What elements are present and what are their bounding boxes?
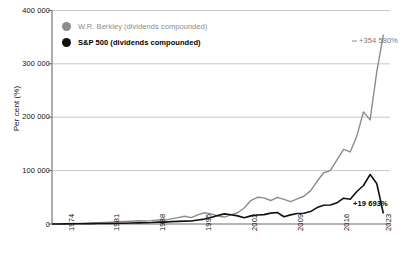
x-tick-label-1974: 1974 [68,214,76,232]
annotation-sp500-total: +19 693% [353,199,388,208]
line-series-berkley [52,35,383,224]
x-tick-label-1995: 1995 [205,214,213,232]
x-tick-label-2009: 2009 [297,214,305,232]
x-tick-label-2016: 2016 [343,214,351,232]
legend-dot-icon-berkley [62,22,71,31]
chart-legend: W.R. Berkley (dividends compounded) S&P … [62,18,207,50]
y-tick-marks [48,11,52,225]
x-tick-label-1981: 1981 [113,214,121,232]
legend-dot-icon-sp500 [62,38,71,47]
legend-label-berkley: W.R. Berkley (dividends compounded) [78,22,207,31]
legend-item-berkley: W.R. Berkley (dividends compounded) [62,18,207,34]
annotation-berkley-total: +354 580% [359,36,398,45]
x-tick-label-2023: 2023 [385,214,393,232]
legend-label-sp500: S&P 500 (dividends compounded) [78,38,201,47]
legend-item-sp500: S&P 500 (dividends compounded) [62,34,207,50]
x-tick-label-2002: 2002 [251,214,259,232]
chart-container: Per cent (%) 400 000 300 000 200 000 100… [0,0,403,266]
x-tick-label-1988: 1988 [159,214,167,232]
